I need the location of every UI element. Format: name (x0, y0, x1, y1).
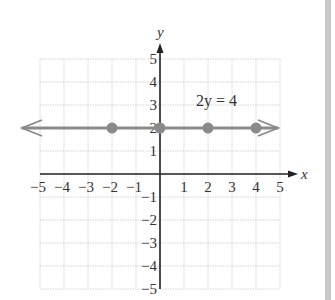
y-axis-label: y (155, 24, 164, 40)
data-point (251, 123, 262, 134)
y-tick-label: −3 (141, 235, 157, 251)
x-axis-arrow-icon (288, 171, 298, 178)
y-tick-label: −4 (141, 258, 157, 274)
x-tick-label: −3 (78, 179, 94, 195)
data-point (203, 123, 214, 134)
y-tick-label: −1 (141, 189, 157, 205)
x-axis-label: x (300, 166, 308, 182)
x-tick-label: 2 (204, 179, 212, 195)
x-tick-label: 4 (252, 179, 260, 195)
y-tick-label: 5 (150, 51, 158, 67)
equation-label: 2y = 4 (196, 92, 237, 110)
x-tick-label: −4 (54, 179, 70, 195)
coordinate-plane: −5−4−3−2−112345−5−4−3−2−112345 2y = 4 x … (0, 0, 335, 300)
y-tick-label: −5 (141, 281, 157, 297)
y-tick-label: 4 (150, 74, 158, 90)
scrollbar-edge (325, 0, 331, 300)
y-axis-arrow-icon (157, 43, 164, 53)
y-tick-label: −2 (141, 212, 157, 228)
x-tick-label: 1 (180, 179, 188, 195)
y-tick-label: 3 (150, 97, 158, 113)
x-tick-label: −2 (102, 179, 118, 195)
x-tick-label: −5 (30, 179, 46, 195)
x-tick-label: −1 (126, 179, 142, 195)
axes (40, 43, 298, 289)
y-tick-label: 1 (150, 143, 158, 159)
data-point (107, 123, 118, 134)
x-tick-label: 3 (228, 179, 236, 195)
data-point (155, 123, 166, 134)
x-tick-label: 5 (276, 179, 284, 195)
